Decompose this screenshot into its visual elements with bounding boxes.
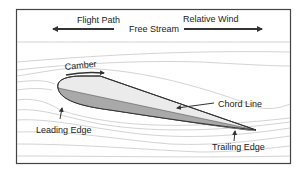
airfoil-diagram: Flight Path Free Stream Relative Wind Ca… — [0, 0, 304, 186]
trailing-edge-label: Trailing Edge — [212, 142, 265, 152]
chord-line-label: Chord Line — [218, 99, 262, 109]
flight-path-label: Flight Path — [77, 15, 120, 25]
relative-wind-label: Relative Wind — [183, 14, 239, 24]
leading-edge-label: Leading Edge — [36, 125, 92, 135]
free-stream-label: Free Stream — [129, 24, 179, 34]
